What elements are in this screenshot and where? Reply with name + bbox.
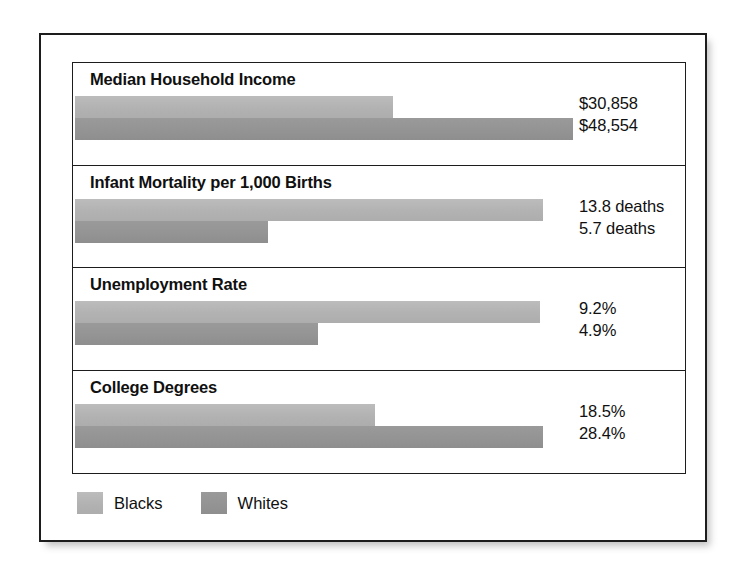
chart-panel-college-degrees: College Degrees 18.5% 28.4% bbox=[73, 371, 685, 474]
panel-title: Median Household Income bbox=[90, 70, 296, 89]
bar-blacks bbox=[75, 199, 543, 221]
value-label-blacks: 13.8 deaths bbox=[579, 197, 664, 216]
legend-item-blacks: Blacks bbox=[77, 492, 163, 514]
legend-swatch-icon-blacks bbox=[77, 492, 103, 514]
figure-frame: Median Household Income $30,858 $48,554 … bbox=[39, 33, 707, 542]
bar-whites bbox=[75, 426, 543, 448]
panel-title: Infant Mortality per 1,000 Births bbox=[90, 173, 332, 192]
value-label-blacks: 9.2% bbox=[579, 299, 616, 318]
value-label-whites: $48,554 bbox=[579, 116, 638, 135]
value-label-blacks: $30,858 bbox=[579, 94, 638, 113]
legend-label-whites: Whites bbox=[238, 494, 288, 513]
chart-legend: Blacks Whites bbox=[77, 490, 326, 516]
value-label-whites: 4.9% bbox=[579, 321, 616, 340]
value-label-whites: 28.4% bbox=[579, 424, 625, 443]
value-label-blacks: 18.5% bbox=[579, 402, 625, 421]
panel-title: Unemployment Rate bbox=[90, 275, 247, 294]
chart-panel-unemployment-rate: Unemployment Rate 9.2% 4.9% bbox=[73, 268, 685, 371]
chart-panel-infant-mortality: Infant Mortality per 1,000 Births 13.8 d… bbox=[73, 166, 685, 269]
chart-plot-area: Median Household Income $30,858 $48,554 … bbox=[72, 62, 686, 474]
bar-whites bbox=[75, 323, 318, 345]
bar-whites bbox=[75, 221, 268, 243]
legend-swatch-icon-whites bbox=[201, 492, 227, 514]
value-label-whites: 5.7 deaths bbox=[579, 219, 655, 238]
panel-title: College Degrees bbox=[90, 378, 217, 397]
bar-blacks bbox=[75, 301, 540, 323]
legend-item-whites: Whites bbox=[201, 492, 288, 514]
legend-label-blacks: Blacks bbox=[114, 494, 163, 513]
bar-blacks bbox=[75, 96, 393, 118]
chart-panel-median-household-income: Median Household Income $30,858 $48,554 bbox=[73, 63, 685, 166]
bar-blacks bbox=[75, 404, 375, 426]
bar-whites bbox=[75, 118, 573, 140]
